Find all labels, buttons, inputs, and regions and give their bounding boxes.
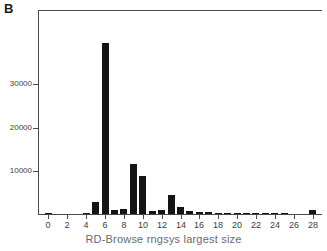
bar <box>149 211 156 214</box>
x-axis-tick <box>237 215 238 219</box>
bar <box>130 164 137 214</box>
bar <box>281 213 288 215</box>
bar <box>271 213 278 215</box>
bar <box>309 210 316 214</box>
x-axis-tick-label: 16 <box>191 220 207 230</box>
x-axis-tick <box>143 215 144 219</box>
y-axis-tick-label: 10000 <box>0 167 32 175</box>
bar <box>139 176 146 214</box>
bar <box>102 43 109 214</box>
y-axis-tick-label: 30000 <box>0 80 32 88</box>
bar <box>168 195 175 214</box>
x-axis-tick-label: 4 <box>78 220 94 230</box>
x-axis-title: RD-Browse rngsys largest size <box>0 233 327 245</box>
bar <box>83 213 90 215</box>
x-axis-tick <box>199 215 200 219</box>
bar <box>234 213 241 215</box>
bar <box>252 213 259 215</box>
x-axis-tick-label: 22 <box>248 220 264 230</box>
figure-panel-b: B 100002000030000 0246810121416182022242… <box>0 0 327 251</box>
bar <box>243 213 250 215</box>
x-axis-tick-label: 26 <box>286 220 302 230</box>
x-axis-tick-label: 2 <box>59 220 75 230</box>
x-axis-tick-label: 0 <box>40 220 56 230</box>
x-axis-tick <box>105 215 106 219</box>
panel-label: B <box>4 2 13 16</box>
x-axis-tick-label: 6 <box>97 220 113 230</box>
x-axis-tick <box>162 215 163 219</box>
x-axis-tick-label: 20 <box>229 220 245 230</box>
x-axis-tick-label: 12 <box>154 220 170 230</box>
bar <box>196 212 203 214</box>
x-axis-tick-label: 24 <box>267 220 283 230</box>
bar <box>45 213 52 215</box>
bar <box>186 211 193 214</box>
y-axis-tick <box>33 84 38 85</box>
x-axis-tick <box>313 215 314 219</box>
x-axis-tick-label: 18 <box>210 220 226 230</box>
bar <box>215 213 222 215</box>
bars-container <box>39 11 322 214</box>
x-axis-tick <box>67 215 68 219</box>
bar <box>224 213 231 215</box>
bar <box>262 213 269 215</box>
x-axis-tick <box>294 215 295 219</box>
x-axis-tick <box>256 215 257 219</box>
bar <box>92 202 99 214</box>
y-axis-tick <box>33 128 38 129</box>
x-axis-tick <box>181 215 182 219</box>
x-axis-tick <box>124 215 125 219</box>
y-axis-tick-label: 20000 <box>0 124 32 132</box>
x-axis-tick <box>86 215 87 219</box>
x-axis-tick-label: 10 <box>135 220 151 230</box>
bar <box>177 207 184 214</box>
x-axis-line <box>38 214 322 215</box>
x-axis-tick-label: 28 <box>305 220 321 230</box>
bar <box>158 210 165 214</box>
bar <box>111 210 118 214</box>
x-axis-tick <box>218 215 219 219</box>
x-axis-tick-label: 14 <box>173 220 189 230</box>
bar <box>120 209 127 214</box>
bar <box>205 212 212 214</box>
y-axis-tick <box>33 171 38 172</box>
x-axis-tick <box>48 215 49 219</box>
x-axis-tick <box>275 215 276 219</box>
x-axis-tick-label: 8 <box>116 220 132 230</box>
